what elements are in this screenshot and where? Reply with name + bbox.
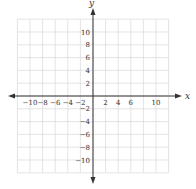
coordinate-plane: x y −10−8−6−4−224610 108642−2−4−6−8−10 [0, 0, 196, 189]
x-tick-labels: −10−8−6−4−224610 [23, 99, 161, 107]
x-axis-label: x [185, 91, 190, 101]
y-tick-label: −8 [80, 144, 90, 152]
y-tick-label: −2 [80, 105, 90, 113]
x-tick-label: 4 [116, 99, 121, 107]
y-tick-label: −6 [80, 131, 91, 139]
y-axis-label: y [88, 0, 95, 8]
x-axis-left-arrow-icon [8, 94, 15, 99]
x-tick-label: 10 [152, 99, 161, 107]
axes: x y [8, 0, 190, 184]
x-axis-right-arrow-icon [175, 94, 182, 99]
y-tick-label: 10 [81, 29, 90, 37]
x-tick-label: −10 [23, 99, 38, 107]
x-tick-label: 6 [129, 99, 134, 107]
x-tick-label: −4 [63, 99, 74, 107]
x-tick-label: 2 [103, 99, 107, 107]
y-tick-label: −10 [75, 157, 90, 165]
y-tick-label: 8 [86, 41, 90, 49]
y-tick-label: 6 [86, 54, 91, 62]
y-axis-top-arrow-icon [91, 8, 96, 15]
y-axis-bottom-arrow-icon [91, 177, 96, 184]
y-tick-label: −4 [80, 118, 91, 126]
x-tick-label: −8 [37, 99, 47, 107]
y-tick-label: 2 [86, 80, 90, 88]
x-tick-label: −6 [50, 99, 61, 107]
y-tick-label: 4 [86, 67, 91, 75]
